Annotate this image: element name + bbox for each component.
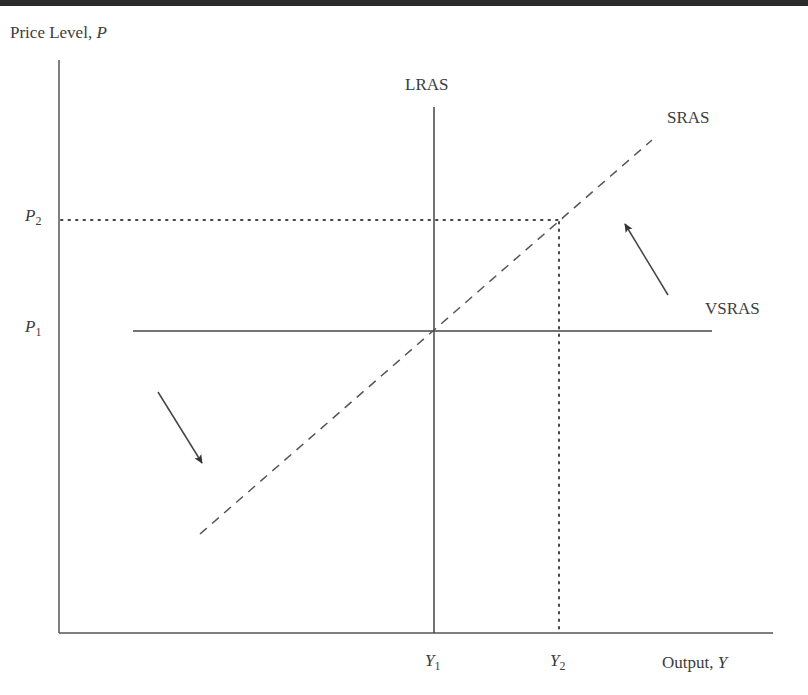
x-axis-label-text: Output,: [662, 653, 718, 672]
y1-subscript: 1: [434, 659, 440, 673]
y-axis-label-text: Price Level,: [10, 23, 96, 42]
up-left-arrow-icon: [625, 224, 668, 295]
y1-label: Y1: [425, 652, 440, 672]
x-axis-label: Output, Y: [662, 654, 727, 671]
vsras-label: VSRAS: [705, 300, 760, 317]
p1-symbol: P: [25, 317, 35, 336]
y2-label: Y2: [550, 652, 565, 672]
x-axis-variable: Y: [718, 653, 727, 672]
p2-symbol: P: [25, 206, 35, 225]
sras-curve: [200, 140, 652, 534]
p1-subscript: 1: [35, 325, 41, 339]
lras-label: LRAS: [405, 76, 448, 93]
sras-label: SRAS: [667, 109, 710, 126]
p1-label: P1: [25, 318, 41, 338]
y2-subscript: 2: [559, 659, 565, 673]
aggregate-supply-diagram: [0, 0, 808, 695]
down-right-arrow-icon: [158, 392, 202, 463]
y-axis-variable: P: [96, 23, 106, 42]
p2-subscript: 2: [35, 214, 41, 228]
y-axis-label: Price Level, P: [10, 24, 107, 41]
p2-label: P2: [25, 207, 41, 227]
